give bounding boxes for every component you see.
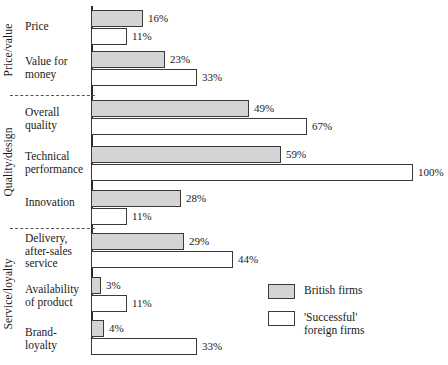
group-separator-2 (10, 228, 95, 229)
group-axis-label-price-value: Price/value (0, 6, 16, 94)
bar-value-foreign-overall-quality: 67% (312, 120, 332, 132)
bar-value-foreign-technical-performance: 100% (418, 166, 444, 178)
bar-british-availability-of-product (91, 277, 101, 294)
category-label-line: Brand- (25, 326, 89, 339)
category-label-innovation: Innovation (25, 196, 89, 209)
chart-legend: British firms 'Successful' foreign firms (268, 284, 364, 348)
category-label-line: performance (25, 163, 89, 176)
bar-value-foreign-price: 11% (132, 30, 152, 42)
bar-british-technical-performance (91, 146, 281, 163)
category-label-line: Technical (25, 150, 89, 163)
bar-british-innovation (91, 190, 181, 207)
category-label-line: service (25, 257, 89, 270)
bar-british-delivery-after-sales-service (91, 233, 184, 250)
bar-foreign-delivery-after-sales-service (91, 251, 233, 268)
group-axis-label-text: Quality/design (2, 127, 14, 196)
bar-value-foreign-innovation: 11% (132, 210, 152, 222)
bar-foreign-brand-loyalty (91, 338, 197, 355)
bar-value-foreign-value-for-money: 33% (202, 71, 222, 83)
bar-value-british-innovation: 28% (186, 192, 206, 204)
legend-swatch-foreign-firms (268, 311, 295, 326)
bar-value-foreign-delivery-after-sales-service: 44% (238, 253, 258, 265)
bar-value-british-brand-loyalty: 4% (109, 322, 124, 334)
category-label-line: loyalty (25, 339, 89, 352)
category-label-line: after-sales (25, 245, 89, 258)
legend-swatch-british-firms (268, 284, 295, 299)
bar-british-overall-quality (91, 100, 249, 117)
category-label-line: quality (25, 119, 89, 132)
bar-foreign-price (91, 28, 127, 45)
bar-british-brand-loyalty (91, 320, 104, 337)
category-label-line: Availability (25, 283, 89, 296)
bar-chart: Price/value Quality/design Service/loyal… (0, 0, 448, 365)
category-label-technical-performance: Technical performance (25, 150, 89, 175)
group-axis-label-service-loyalty: Service/loyalty (0, 230, 16, 358)
bar-value-british-technical-performance: 59% (286, 148, 306, 160)
legend-item-british-firms: British firms (268, 284, 364, 299)
bar-foreign-availability-of-product (91, 295, 127, 312)
bar-value-british-delivery-after-sales-service: 29% (189, 235, 209, 247)
bar-foreign-technical-performance (91, 164, 413, 181)
bar-value-british-overall-quality: 49% (254, 102, 274, 114)
legend-label-foreign-firms: 'Successful' foreign firms (304, 311, 364, 336)
category-label-delivery-after-sales-service: Delivery, after-sales service (25, 232, 89, 270)
bar-foreign-innovation (91, 208, 127, 225)
category-label-line: Innovation (25, 196, 89, 209)
category-label-line: Value for (25, 55, 89, 68)
category-label-line: Price (25, 20, 89, 33)
bar-british-value-for-money (91, 51, 165, 68)
bar-foreign-value-for-money (91, 69, 197, 86)
category-label-brand-loyalty: Brand- loyalty (25, 326, 89, 351)
category-label-value-for-money: Value for money (25, 55, 89, 80)
bar-value-foreign-brand-loyalty: 33% (202, 340, 222, 352)
group-separator-1 (10, 95, 95, 96)
bar-value-foreign-availability-of-product: 11% (132, 297, 152, 309)
category-label-availability-of-product: Availability of product (25, 283, 89, 308)
legend-item-foreign-firms: 'Successful' foreign firms (268, 311, 364, 336)
bar-foreign-overall-quality (91, 118, 307, 135)
category-label-line: money (25, 68, 89, 81)
category-label-line: Delivery, (25, 232, 89, 245)
bar-value-british-availability-of-product: 3% (106, 279, 121, 291)
group-axis-label-text: Price/value (2, 24, 14, 77)
group-axis-label-quality-design: Quality/design (0, 96, 16, 228)
group-axis-label-text: Service/loyalty (2, 258, 14, 329)
category-label-overall-quality: Overall quality (25, 106, 89, 131)
bar-british-price (91, 10, 143, 27)
category-label-line: of product (25, 296, 89, 309)
category-label-price: Price (25, 20, 89, 33)
bar-value-british-value-for-money: 23% (170, 53, 190, 65)
bar-value-british-price: 16% (148, 12, 168, 24)
legend-label-british-firms: British firms (304, 284, 362, 297)
category-label-line: Overall (25, 106, 89, 119)
